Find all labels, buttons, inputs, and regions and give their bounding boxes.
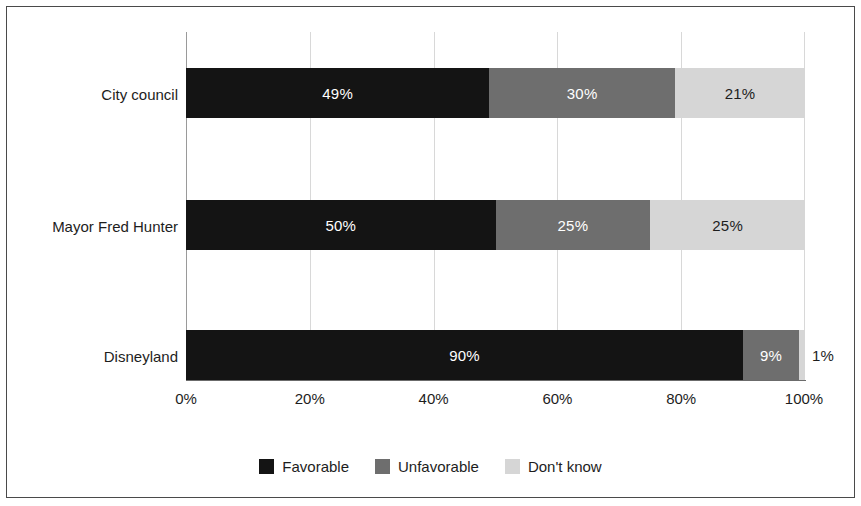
chart-legend: Favorable Unfavorable Don't know [0,458,861,475]
x-tick-label-20: 20% [295,390,325,407]
bar-segment-label: 1% [812,347,834,364]
category-axis-labels: City council Mayor Fred Hunter Disneylan… [8,32,178,380]
stacked-bar-disneyland: 90% 9% 1% [186,330,805,380]
x-tick-label-0: 0% [175,390,197,407]
category-label-mayor-fred-hunter: Mayor Fred Hunter [8,219,178,234]
legend-swatch-favorable-icon [259,459,274,474]
legend-item-unfavorable: Unfavorable [375,458,479,475]
bar-segment-favorable: 90% [186,330,743,380]
legend-label-dont-know: Don't know [528,458,602,475]
stacked-bar-city-council: 49% 30% 21% [186,68,805,118]
x-axis-line [186,380,806,381]
bar-segment-dont-know: 25% [650,200,805,250]
bar-segment-label: 21% [725,85,756,102]
x-tick-label-80: 80% [666,390,696,407]
bar-segment-label: 25% [558,217,589,234]
legend-swatch-dont-know-icon [505,459,520,474]
bar-segment-dont-know: 21% [675,68,805,118]
x-tick-label-100: 100% [785,390,823,407]
legend-label-unfavorable: Unfavorable [398,458,479,475]
plot-area: 49% 30% 21% 50% 25% 25% [186,32,805,380]
bar-segment-label: 9% [760,347,782,364]
bar-segment-unfavorable: 9% [743,330,799,380]
bar-segment-unfavorable: 25% [496,200,651,250]
bar-segment-label: 50% [325,217,356,234]
legend-swatch-unfavorable-icon [375,459,390,474]
bar-row: 50% 25% 25% [186,200,805,250]
bar-row: 49% 30% 21% [186,68,805,118]
bar-segment-label: 90% [449,347,480,364]
bar-segment-label: 25% [712,217,743,234]
bar-row: 90% 9% 1% [186,330,805,380]
x-tick-label-40: 40% [419,390,449,407]
bar-segment-label: 30% [567,85,598,102]
category-label-city-council: City council [8,87,178,102]
bar-segment-dont-know: 1% [799,330,805,380]
category-label-disneyland: Disneyland [8,349,178,364]
bar-segment-favorable: 50% [186,200,496,250]
bar-segment-unfavorable: 30% [489,68,675,118]
x-axis-tick-labels: 0% 20% 40% 60% 80% 100% [186,390,805,414]
legend-item-dont-know: Don't know [505,458,602,475]
stacked-bar-mayor-fred-hunter: 50% 25% 25% [186,200,805,250]
legend-label-favorable: Favorable [282,458,349,475]
x-tick-label-60: 60% [542,390,572,407]
bar-segment-favorable: 49% [186,68,489,118]
chart-figure: 49% 30% 21% 50% 25% 25% [0,0,861,506]
bar-segment-label: 49% [322,85,353,102]
legend-item-favorable: Favorable [259,458,349,475]
